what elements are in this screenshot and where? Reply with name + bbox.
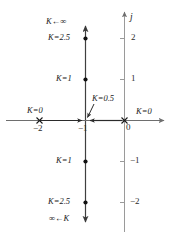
gain-label-lower-k-two-point-five: K=2.5 — [48, 197, 70, 206]
gain-label-lower-k-one: K=1 — [56, 156, 72, 165]
imag-tick-label-minus-1: −1 — [130, 156, 140, 165]
imag-tick-label-2: 2 — [131, 33, 136, 42]
imag-tick-label-1: 1 — [131, 74, 136, 83]
imag-tick-label-minus-2: −2 — [130, 197, 140, 206]
imaginary-axis-label: j — [130, 13, 133, 23]
root-locus-figure: j 2 1 −1 −2 −2 −1 0 K←∞ K=2.5 K=1 K=0.5 … — [0, 0, 171, 241]
locus-dot-lower-k-two-point-five — [83, 200, 87, 204]
gain-label-upper-k-two-point-five: K=2.5 — [48, 33, 70, 42]
lower-asymptote-label: ∞←K — [49, 214, 69, 223]
gain-label-breakaway-k-half: K=0.5 — [92, 94, 114, 103]
real-tick-label-minus-1: −1 — [78, 124, 88, 133]
real-tick-label-minus-2: −2 — [33, 124, 43, 133]
locus-dot-lower-k-one — [83, 159, 87, 163]
gain-label-upper-k-one: K=1 — [56, 74, 72, 83]
root-locus-plot-canvas — [0, 0, 171, 241]
locus-dot-upper-k-one — [83, 77, 87, 81]
gain-label-pole-minus-two: K=0 — [27, 106, 43, 115]
locus-dot-upper-k-two-point-five — [83, 36, 87, 40]
gain-label-pole-origin: K=0 — [136, 107, 152, 116]
real-tick-label-zero: 0 — [126, 123, 131, 132]
upper-asymptote-label: K←∞ — [46, 17, 66, 26]
breakaway-callout-arrow — [88, 104, 95, 118]
